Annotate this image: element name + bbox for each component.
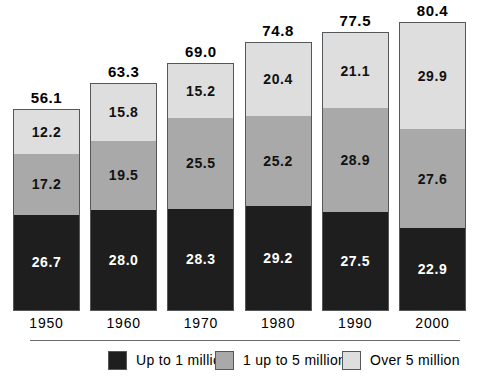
segment-1-to-5-million[interactable]: 19.5: [91, 141, 156, 211]
bar-stack[interactable]: 29.927.622.9: [399, 22, 466, 311]
chart-legend: Up to 1 million1 up to 5 millionOver 5 m…: [30, 349, 460, 373]
category-label-1960: 1960: [90, 313, 157, 333]
segment-1-to-5-million[interactable]: 28.9: [323, 108, 388, 211]
segment-over-5-million[interactable]: 15.2: [168, 64, 233, 118]
segment-1-to-5-million[interactable]: 27.6: [400, 129, 465, 228]
segment-value-label: 27.5: [340, 254, 370, 268]
bar-total-label: 63.3: [90, 64, 157, 79]
legend-label: Over 5 million: [370, 353, 460, 367]
category-label-1990: 1990: [322, 313, 389, 333]
segment-up-to-1-million[interactable]: 22.9: [400, 228, 465, 310]
plot-area: 56.112.217.226.763.315.819.528.069.015.2…: [0, 0, 486, 311]
segment-value-label: 20.4: [263, 72, 293, 86]
bar-group: 69.015.225.528.3: [167, 0, 234, 311]
bar-group: 74.820.425.229.2: [245, 0, 312, 311]
segment-over-5-million[interactable]: 12.2: [14, 110, 79, 153]
segment-1-to-5-million[interactable]: 25.2: [246, 116, 311, 206]
bar-total-label: 56.1: [13, 90, 80, 105]
bar-stack[interactable]: 12.217.226.7: [13, 109, 80, 311]
legend-item[interactable]: Over 5 million: [342, 349, 460, 371]
category-label-1980: 1980: [245, 313, 312, 333]
legend-label: 1 up to 5 million: [243, 353, 346, 367]
segment-value-label: 15.8: [109, 105, 139, 119]
category-axis: 195019601970198019902000: [0, 313, 486, 335]
segment-value-label: 19.5: [109, 168, 139, 182]
segment-over-5-million[interactable]: 21.1: [323, 33, 388, 108]
segment-over-5-million[interactable]: 29.9: [400, 23, 465, 130]
bar-stack[interactable]: 15.819.528.0: [90, 83, 157, 311]
legend-item[interactable]: Up to 1 million: [108, 349, 229, 371]
legend-swatch-icon: [108, 351, 127, 370]
segment-value-label: 29.9: [418, 69, 448, 83]
segment-value-label: 27.6: [418, 172, 448, 186]
bar-stack[interactable]: 21.128.927.5: [322, 32, 389, 311]
bar-group: 77.521.128.927.5: [322, 0, 389, 311]
segment-over-5-million[interactable]: 20.4: [246, 43, 311, 116]
segment-up-to-1-million[interactable]: 28.0: [91, 210, 156, 310]
segment-value-label: 28.0: [109, 253, 139, 267]
segment-1-to-5-million[interactable]: 17.2: [14, 154, 79, 215]
legend-swatch-icon: [342, 351, 361, 370]
bar-group: 80.429.927.622.9: [399, 0, 466, 311]
bar-total-label: 74.8: [245, 23, 312, 38]
legend-divider: [30, 340, 460, 341]
segment-up-to-1-million[interactable]: 26.7: [14, 215, 79, 310]
category-label-1970: 1970: [167, 313, 234, 333]
bar-stack[interactable]: 20.425.229.2: [245, 42, 312, 311]
segment-value-label: 15.2: [186, 84, 216, 98]
bar-total-label: 69.0: [167, 44, 234, 59]
segment-value-label: 21.1: [340, 64, 370, 78]
bar-total-label: 80.4: [399, 3, 466, 18]
legend-item[interactable]: 1 up to 5 million: [215, 349, 346, 371]
segment-value-label: 17.2: [32, 177, 62, 191]
segment-value-label: 22.9: [418, 262, 448, 276]
segment-value-label: 25.5: [186, 156, 216, 170]
stacked-bar-chart: 56.112.217.226.763.315.819.528.069.015.2…: [0, 0, 486, 376]
bar-group: 63.315.819.528.0: [90, 0, 157, 311]
segment-over-5-million[interactable]: 15.8: [91, 84, 156, 140]
segment-up-to-1-million[interactable]: 27.5: [323, 212, 388, 310]
bar-group: 56.112.217.226.7: [13, 0, 80, 311]
segment-value-label: 28.9: [340, 153, 370, 167]
segment-value-label: 25.2: [263, 154, 293, 168]
segment-value-label: 28.3: [186, 252, 216, 266]
bar-total-label: 77.5: [322, 13, 389, 28]
segment-up-to-1-million[interactable]: 29.2: [246, 206, 311, 310]
legend-swatch-icon: [215, 351, 234, 370]
segment-value-label: 12.2: [32, 125, 62, 139]
segment-1-to-5-million[interactable]: 25.5: [168, 118, 233, 209]
segment-up-to-1-million[interactable]: 28.3: [168, 209, 233, 310]
segment-value-label: 29.2: [263, 251, 293, 265]
category-label-1950: 1950: [13, 313, 80, 333]
bar-stack[interactable]: 15.225.528.3: [167, 63, 234, 311]
segment-value-label: 26.7: [32, 255, 62, 269]
category-label-2000: 2000: [399, 313, 466, 333]
